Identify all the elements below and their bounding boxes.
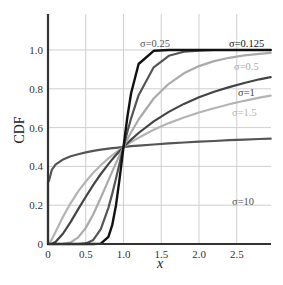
y-tick-label: 1.0 xyxy=(29,44,43,56)
cdf-curves xyxy=(48,50,271,244)
series-label: σ=0.5 xyxy=(234,61,259,72)
cdf-curve xyxy=(48,50,271,244)
x-tick-label: 0 xyxy=(45,248,51,260)
series-label: σ=1 xyxy=(238,87,255,98)
x-tick-label: 2.5 xyxy=(230,248,244,260)
cdf-curve xyxy=(48,139,271,244)
series-label: σ=1.5 xyxy=(232,107,257,118)
cdf-chart: 00.51.01.52.02.500.20.40.60.81.0 σ=10σ=1… xyxy=(0,0,283,285)
x-axis-label: x xyxy=(156,256,164,271)
series-label: σ=0.125 xyxy=(229,38,264,49)
tick-labels: 00.51.01.52.02.500.20.40.60.81.0 xyxy=(29,44,244,260)
y-tick-label: 0.8 xyxy=(29,83,43,95)
y-tick-label: 0 xyxy=(38,238,44,250)
y-tick-label: 0.4 xyxy=(29,160,43,172)
y-tick-label: 0.6 xyxy=(29,122,43,134)
series-label: σ=10 xyxy=(232,196,254,207)
x-tick-label: 1.0 xyxy=(117,248,131,260)
x-tick-label: 0.5 xyxy=(79,248,93,260)
cdf-curve xyxy=(48,50,271,244)
y-tick-label: 0.2 xyxy=(29,199,43,211)
cdf-curve xyxy=(48,53,271,244)
x-tick-label: 2.0 xyxy=(192,248,206,260)
y-axis-label: CDF xyxy=(12,116,27,143)
series-label: σ=0.25 xyxy=(140,38,170,49)
